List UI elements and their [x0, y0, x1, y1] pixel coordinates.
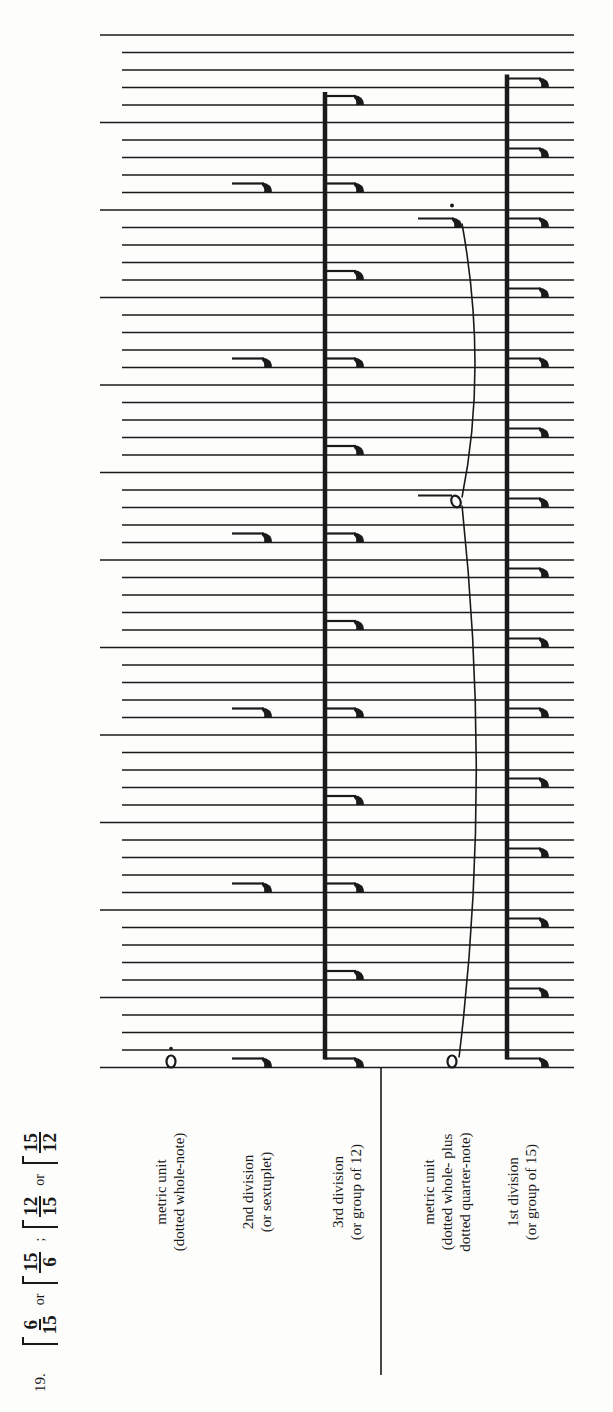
notehead-icon — [539, 428, 549, 438]
label-second-division: 2nd division (or sextuplet) — [239, 1092, 275, 1292]
exercise-heading: 19. 615 or 156 ; 1215 or 1512 — [22, 1126, 58, 1392]
dot-icon — [450, 204, 454, 208]
notehead-icon — [354, 533, 364, 543]
notehead-icon — [539, 148, 549, 158]
meter-bracket-icon — [22, 1337, 58, 1345]
notehead-icon — [262, 883, 272, 893]
notehead-icon — [354, 1058, 364, 1068]
notehead-icon — [354, 270, 364, 280]
label-third-division: 3rd division (or group of 12) — [329, 1092, 365, 1292]
notehead-icon — [539, 498, 549, 508]
notehead-icon — [354, 183, 364, 193]
notehead-icon — [539, 848, 549, 858]
tie-curve — [462, 224, 475, 498]
meter-15-6: 156 — [22, 1252, 58, 1284]
notehead-icon — [354, 795, 364, 805]
notehead-icon — [354, 970, 364, 980]
meter-bracket-icon — [22, 1156, 58, 1164]
notehead-icon — [539, 638, 549, 648]
exercise-number: 19. — [32, 1373, 49, 1392]
dotted-whole-note-icon — [167, 1056, 176, 1068]
meter-bracket-icon — [22, 1220, 58, 1228]
notehead-icon — [539, 918, 549, 928]
notehead-icon — [262, 358, 272, 368]
notehead-icon — [539, 1058, 549, 1068]
notehead-icon — [539, 78, 549, 88]
notehead-icon — [539, 358, 549, 368]
notehead-icon — [539, 218, 549, 228]
notehead-icon — [539, 708, 549, 718]
dot-icon — [169, 1047, 173, 1051]
meter-separator: ; — [32, 1238, 48, 1242]
meter-bracket-icon — [22, 1276, 58, 1284]
whole-note-icon — [448, 1056, 457, 1068]
notehead-icon — [354, 95, 364, 105]
notehead-icon — [539, 778, 549, 788]
meter-15-12: 1512 — [22, 1132, 58, 1164]
tie-curve — [459, 506, 476, 1058]
staff-lines — [100, 35, 574, 1068]
notehead-icon — [539, 288, 549, 298]
meter-separator: or — [32, 1174, 48, 1186]
notehead-icon — [354, 883, 364, 893]
notehead-icon — [354, 708, 364, 718]
notehead-icon — [539, 568, 549, 578]
notehead-icon — [354, 358, 364, 368]
notehead-icon — [354, 445, 364, 455]
label-metric-unit-2: metric unit (dotted whole- plus dotted q… — [420, 1092, 474, 1292]
notehead-icon — [262, 533, 272, 543]
meter-6-15: 615 — [22, 1315, 58, 1345]
notehead-icon — [354, 620, 364, 630]
notehead-icon — [262, 708, 272, 718]
label-metric-unit-1: metric unit (dotted whole-note) — [152, 1092, 188, 1292]
label-first-division: 1st division (or group of 15) — [504, 1092, 540, 1292]
meter-12-15: 1215 — [22, 1196, 58, 1228]
notehead-icon — [262, 1058, 272, 1068]
notehead-icon — [262, 183, 272, 193]
notehead-icon — [452, 218, 462, 228]
notehead-icon — [539, 988, 549, 998]
meter-separator: or — [32, 1294, 48, 1306]
